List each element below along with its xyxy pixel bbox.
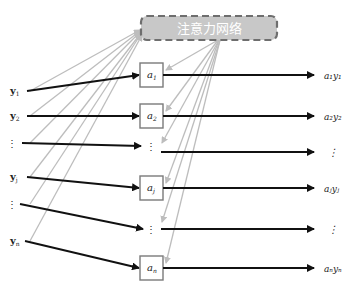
attention-network-box: 注意力网络 xyxy=(141,16,277,40)
input-arrows xyxy=(20,75,143,268)
input-label-y2: y2 xyxy=(9,110,20,122)
attention-diagram: 注意力网络 y1y2⋮yj⋮yna1a2⋮aj⋮ana₁y₁a₂y₂⋮aⱼyⱼ⋮… xyxy=(0,0,352,294)
output-label: a₁y₁ xyxy=(324,71,342,81)
output-label: a₂y₂ xyxy=(324,112,342,122)
weight-ellipsis: ⋮ xyxy=(146,141,156,152)
weight-ellipsis: ⋮ xyxy=(146,224,156,235)
weight-boxes xyxy=(140,63,163,280)
output-label: aⱼyⱼ xyxy=(324,184,340,194)
input-ellipsis: ⋮ xyxy=(7,199,17,210)
output-label: ⋮ xyxy=(328,147,338,158)
output-label: aₙyₙ xyxy=(324,264,342,274)
input-label-yj: yj xyxy=(9,171,18,184)
attention-network-title: 注意力网络 xyxy=(177,21,242,36)
input-ellipsis: ⋮ xyxy=(7,138,17,149)
input-label-yn: yn xyxy=(9,235,20,247)
output-label: ⋮ xyxy=(328,224,338,235)
input-label-y1: y1 xyxy=(9,85,20,97)
